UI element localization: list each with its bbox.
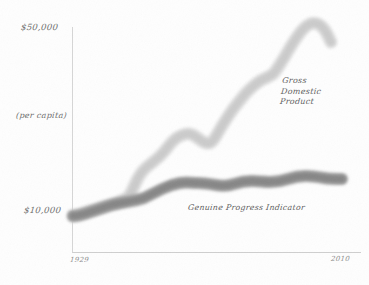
series-label-genuine-progress-indicator: Genuine Progress Indicator bbox=[188, 203, 306, 212]
y-axis-tick-label-bottom: $10,000 bbox=[23, 205, 61, 215]
gdp-label-line-2: Domestic bbox=[280, 87, 321, 98]
y-axis-tick-label-top: $50,000 bbox=[20, 22, 58, 32]
x-axis-tick-label-start: 1929 bbox=[70, 256, 90, 264]
gdp-label-line-1: Gross bbox=[282, 76, 323, 87]
gdp-label-line-3: Product bbox=[279, 97, 320, 108]
x-axis-tick-label-end: 2010 bbox=[331, 255, 351, 263]
chart-plot-area bbox=[0, 0, 369, 285]
series-label-gross-domestic-product: Gross Domestic Product bbox=[279, 76, 323, 108]
y-axis-caption: (per capita) bbox=[16, 111, 68, 120]
chart-canvas: $50,000 $10,000 (per capita) 1929 2010 G… bbox=[0, 0, 369, 285]
